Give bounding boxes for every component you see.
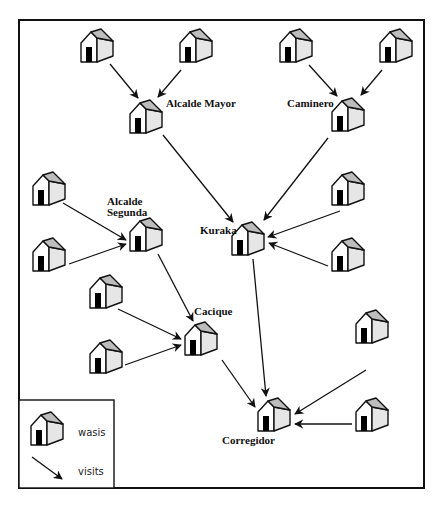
label-alcalde-segunda-line2: Segunda	[107, 206, 148, 218]
arrow-w7-to-kuraka	[268, 211, 340, 237]
house-icon-alcalde_mayor	[130, 100, 162, 133]
house-icon-alcalde_segunda	[130, 218, 162, 251]
arrow-cacique-to-corregidor	[222, 360, 255, 407]
house-icon-w4	[380, 29, 412, 62]
arrow-w4-to-caminero	[361, 70, 382, 95]
network-diagram: Alcalde Mayor Caminero Alcalde Segunda K…	[0, 0, 443, 511]
house-icon-w6	[33, 238, 65, 271]
arrow-alcalde_mayor-to-kuraka	[163, 135, 233, 222]
arrow-w2-to-alcalde_mayor	[158, 70, 181, 97]
arrow-w6-to-alcalde_segunda	[69, 244, 126, 264]
label-alcalde-mayor: Alcalde Mayor	[166, 97, 236, 109]
arrow-caminero-to-kuraka	[264, 138, 328, 220]
house-icon-w3	[280, 29, 312, 62]
arrow-alcalde_segunda-to-cacique	[158, 254, 193, 321]
arrow-kuraka-to-corregidor	[253, 259, 266, 396]
house-icon-corregidor	[258, 398, 290, 431]
house-icon-w9	[90, 275, 122, 308]
house-icon-w7	[332, 172, 364, 205]
label-cacique: Cacique	[194, 305, 233, 317]
house-icon-w12	[356, 398, 388, 431]
arrow-w11-to-corregidor	[295, 370, 366, 414]
house-icon-w1	[81, 29, 113, 62]
arrow-w10-to-cacique	[125, 345, 181, 365]
house-icon-w10	[90, 340, 122, 373]
house-icon-w8	[332, 238, 364, 271]
label-caminero: Caminero	[287, 97, 334, 109]
legend: wasis visits	[19, 400, 114, 488]
house-icon-w2	[180, 29, 212, 62]
legend-label-wasis: wasis	[78, 427, 106, 438]
arrow-w3-to-caminero	[309, 65, 337, 96]
arrow-w8-to-kuraka	[269, 243, 328, 266]
house-icon-cacique	[185, 322, 217, 355]
label-kuraka: Kuraka	[200, 224, 237, 236]
house-icon-w11	[356, 310, 388, 343]
arrow-w9-to-cacique	[118, 309, 181, 339]
label-corregidor: Corregidor	[222, 434, 275, 446]
house-icon-caminero	[332, 98, 364, 131]
house-icon-kuraka	[232, 222, 264, 255]
arrow-w1-to-alcalde_mayor	[110, 64, 138, 98]
legend-label-visits: visits	[78, 466, 104, 477]
house-icon-w5	[33, 172, 65, 205]
